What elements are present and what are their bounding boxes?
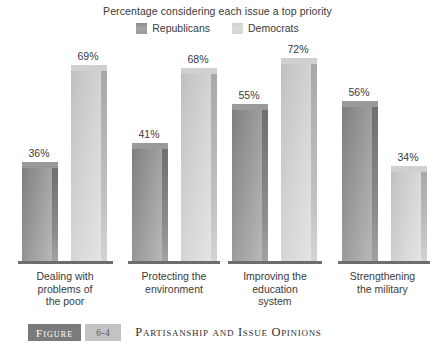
- bar-democrats-1: [181, 68, 217, 261]
- bar-republicans-2: [232, 104, 268, 261]
- bar-value-republicans-3: 56%: [337, 86, 381, 98]
- bar-front-face: [281, 64, 311, 261]
- bar-republicans-0: [22, 162, 58, 261]
- bar-group-3: 56% 34%: [338, 0, 430, 300]
- category-label-line: the poor: [10, 295, 120, 308]
- category-label-2: Improving the education system: [220, 270, 330, 308]
- category-label-3: Strengthening the military: [330, 270, 435, 295]
- category-label-line: problems of: [10, 283, 120, 296]
- bar-value-democrats-0: 69%: [66, 50, 110, 62]
- category-label-line: Protecting the: [119, 270, 229, 283]
- bar-front-face: [342, 107, 372, 261]
- bar-value-democrats-3: 34%: [386, 151, 430, 163]
- bar-group-1: 41% 68%: [128, 0, 220, 300]
- figure-caption: Figure 6-4 Partisanship and Issue Opinio…: [28, 324, 322, 341]
- category-label-line: Strengthening: [330, 270, 435, 283]
- bar-side-face: [421, 172, 427, 261]
- bar-democrats-0: [71, 65, 107, 261]
- category-label-line: education: [220, 283, 330, 296]
- figure-word-badge: Figure: [28, 324, 81, 341]
- category-label-1: Protecting the environment: [119, 270, 229, 295]
- bar-chart-plot: 36% 69% 41% 68% 55%: [0, 0, 435, 300]
- bar-republicans-1: [132, 143, 168, 261]
- category-label-line: system: [220, 295, 330, 308]
- bar-side-face: [372, 107, 378, 261]
- bar-democrats-3: [391, 166, 427, 261]
- baseline-0: [18, 261, 113, 264]
- baseline-3: [338, 261, 430, 264]
- bar-republicans-3: [342, 101, 378, 261]
- figure-number-badge: 6-4: [85, 324, 121, 341]
- bar-group-0: 36% 69%: [18, 0, 113, 300]
- bar-value-republicans-0: 36%: [17, 147, 61, 159]
- bar-front-face: [22, 168, 52, 261]
- bar-democrats-2: [281, 58, 317, 261]
- category-label-line: Improving the: [220, 270, 330, 283]
- bar-front-face: [71, 71, 101, 261]
- category-label-line: Dealing with: [10, 270, 120, 283]
- bar-value-democrats-1: 68%: [176, 53, 220, 65]
- category-label-line: the military: [330, 283, 435, 296]
- figure-title: Partisanship and Issue Opinions: [121, 324, 321, 341]
- bar-value-republicans-1: 41%: [127, 128, 171, 140]
- bar-side-face: [211, 74, 217, 261]
- bar-side-face: [101, 71, 107, 261]
- baseline-2: [228, 261, 322, 264]
- bar-side-face: [262, 110, 268, 261]
- bar-side-face: [162, 149, 168, 261]
- bar-front-face: [181, 74, 211, 261]
- category-label-0: Dealing with problems of the poor: [10, 270, 120, 308]
- bar-side-face: [52, 168, 58, 261]
- bar-value-democrats-2: 72%: [276, 43, 320, 55]
- bar-side-face: [311, 64, 317, 261]
- bar-front-face: [132, 149, 162, 261]
- bar-front-face: [232, 110, 262, 261]
- category-label-line: environment: [119, 283, 229, 296]
- bar-group-2: 55% 72%: [228, 0, 322, 300]
- bar-value-republicans-2: 55%: [227, 89, 271, 101]
- bar-front-face: [391, 172, 421, 261]
- baseline-1: [128, 261, 220, 264]
